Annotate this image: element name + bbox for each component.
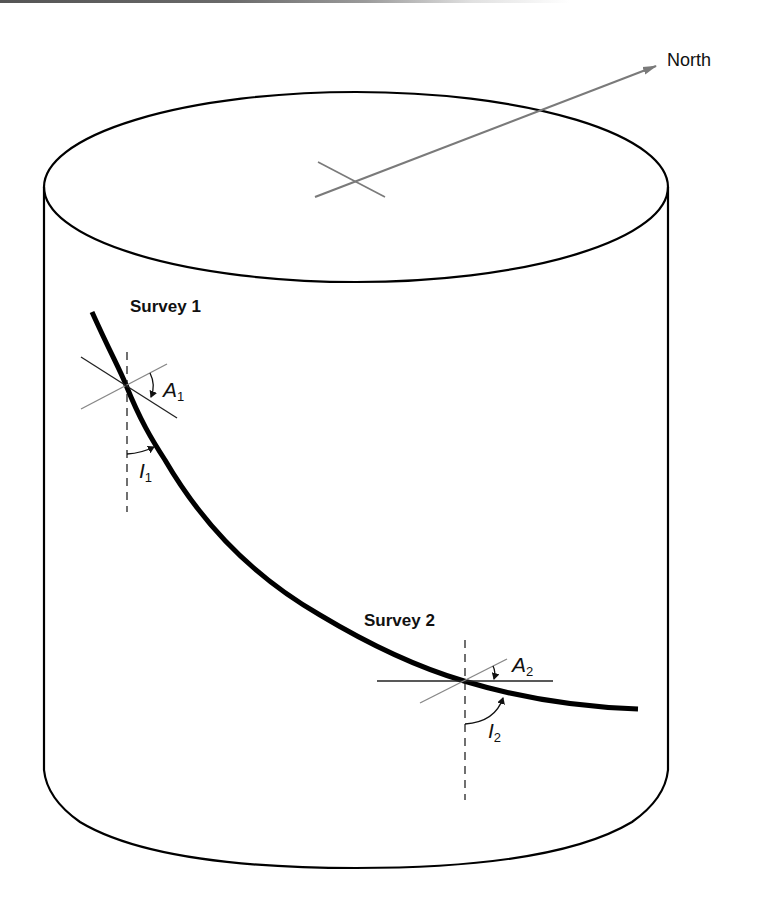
north-label: North bbox=[667, 50, 711, 70]
survey-1-inclination-label: I1 bbox=[139, 459, 152, 485]
survey-2-inclination-label: I2 bbox=[488, 719, 501, 745]
survey-2-azimuth-arc bbox=[493, 666, 495, 679]
survey-2-label: Survey 2 bbox=[364, 611, 435, 630]
survey-diagram: North Survey 1 A1 I1 Survey 2 A2 I2 bbox=[0, 0, 760, 913]
north-reference: North bbox=[315, 50, 711, 197]
survey-2: Survey 2 A2 I2 bbox=[364, 611, 553, 800]
survey-1-inclination-arc bbox=[127, 447, 154, 454]
cylinder-top-ellipse bbox=[44, 92, 668, 282]
wellpath-curve bbox=[92, 312, 638, 709]
survey-1-north-line bbox=[81, 364, 167, 409]
survey-1-label: Survey 1 bbox=[130, 297, 201, 316]
survey-1-azimuth-label: A1 bbox=[161, 378, 184, 404]
north-arrow bbox=[315, 66, 656, 197]
cylinder-body-outline bbox=[44, 187, 668, 868]
survey-2-inclination-arc bbox=[465, 698, 503, 724]
cylinder bbox=[44, 92, 668, 868]
survey-1-azimuth-arc bbox=[150, 373, 153, 397]
survey-2-azimuth-label: A2 bbox=[510, 653, 533, 679]
